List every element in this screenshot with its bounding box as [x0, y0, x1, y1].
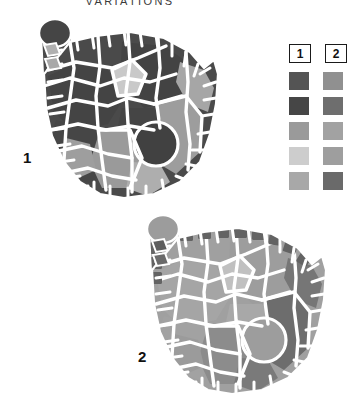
legend-row	[289, 72, 351, 90]
figure-2-label: 2	[138, 348, 146, 365]
legend-row	[289, 172, 351, 190]
legend-swatch-1-5	[289, 172, 309, 190]
legend-swatch-2-1	[323, 72, 343, 90]
legend-swatch-1-2	[289, 97, 309, 115]
legend-swatch-2-3	[323, 122, 343, 140]
figure-1-label: 1	[23, 149, 31, 166]
legend: 1 2	[289, 44, 351, 190]
legend-swatch-1-1	[289, 72, 309, 90]
legend-swatch-2-5	[323, 172, 343, 190]
legend-row	[289, 122, 351, 140]
legend-swatch-2-2	[323, 97, 343, 115]
legend-swatch-1-3	[289, 122, 309, 140]
legend-header-1: 1	[289, 44, 311, 63]
figure-canvas: VARIATIONS	[0, 0, 354, 407]
legend-swatch-1-4	[289, 147, 309, 165]
legend-header-2: 2	[325, 44, 347, 63]
legend-row	[289, 147, 351, 165]
figure-1-diagram	[4, 12, 234, 212]
legend-header-row: 1 2	[289, 44, 351, 63]
figure-2-diagram	[112, 208, 342, 407]
figure-2-body	[112, 208, 342, 407]
page-title: VARIATIONS	[0, 0, 260, 7]
legend-swatch-2-4	[323, 147, 343, 165]
legend-row	[289, 97, 351, 115]
legend-swatch-rows	[289, 72, 351, 190]
figure-1-body	[4, 12, 234, 212]
